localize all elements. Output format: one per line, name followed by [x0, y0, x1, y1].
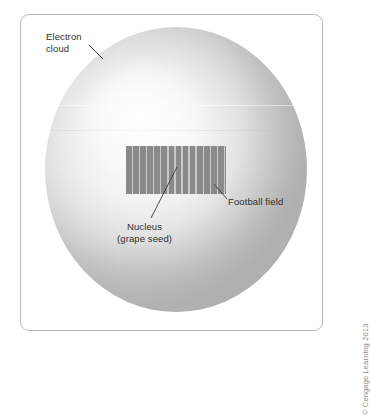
- copyright-credit: © Cengage Learning 2013: [361, 324, 370, 415]
- label-nucleus: Nucleus (grape seed): [117, 221, 172, 244]
- label-electron-cloud: Electron cloud: [46, 31, 82, 54]
- football-field-rectangle: [126, 146, 226, 194]
- label-football-field: Football field: [228, 196, 283, 208]
- football-field-yard-lines: [126, 146, 226, 194]
